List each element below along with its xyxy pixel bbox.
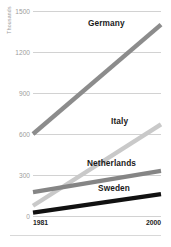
series-label-germany: Germany xyxy=(88,18,125,28)
y-tick-label-300: 300 xyxy=(19,172,30,179)
y-tick-label-1200: 1200 xyxy=(15,49,30,56)
series-label-sweden: Sweden xyxy=(98,183,130,193)
series-label-netherlands: Netherlands xyxy=(87,158,136,168)
y-axis-title: Thousands xyxy=(6,0,12,45)
series-line-sweden xyxy=(33,194,161,212)
bottom-divider xyxy=(10,235,161,236)
y-tick-label-0: 0 xyxy=(26,213,30,220)
y-tick-label-900: 900 xyxy=(19,90,30,97)
gridline-0: 0 xyxy=(33,216,161,217)
series-lines xyxy=(33,11,161,216)
series-line-germany xyxy=(33,25,161,134)
plot-area: 1500 1200 900 600 300 0 Germany Italy Ne… xyxy=(33,11,161,216)
series-line-netherlands xyxy=(33,171,161,192)
x-tick-label-start: 1981 xyxy=(33,219,48,226)
line-chart: Thousands 1500 1200 900 600 300 0 German… xyxy=(0,0,171,247)
series-label-italy: Italy xyxy=(111,116,128,126)
y-tick-label-1500: 1500 xyxy=(15,8,30,15)
x-tick-label-end: 2000 xyxy=(146,219,161,226)
y-tick-label-600: 600 xyxy=(19,131,30,138)
